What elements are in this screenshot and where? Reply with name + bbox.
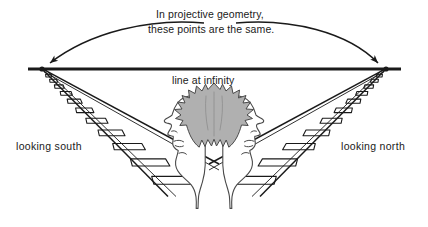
looking-north-label: looking north: [341, 140, 405, 152]
caption-line-1: In projective geometry,: [156, 8, 264, 20]
projective-geometry-figure: In projective geometry, these points are…: [0, 0, 428, 227]
line-at-infinity-label: line at infinity: [172, 74, 234, 86]
vanishing-point-left: [39, 66, 44, 71]
vanishing-point-right: [383, 66, 388, 71]
two-faces-illusion: [164, 83, 263, 208]
caption-line-2: these points are the same.: [148, 23, 274, 35]
looking-south-label: looking south: [16, 140, 82, 152]
